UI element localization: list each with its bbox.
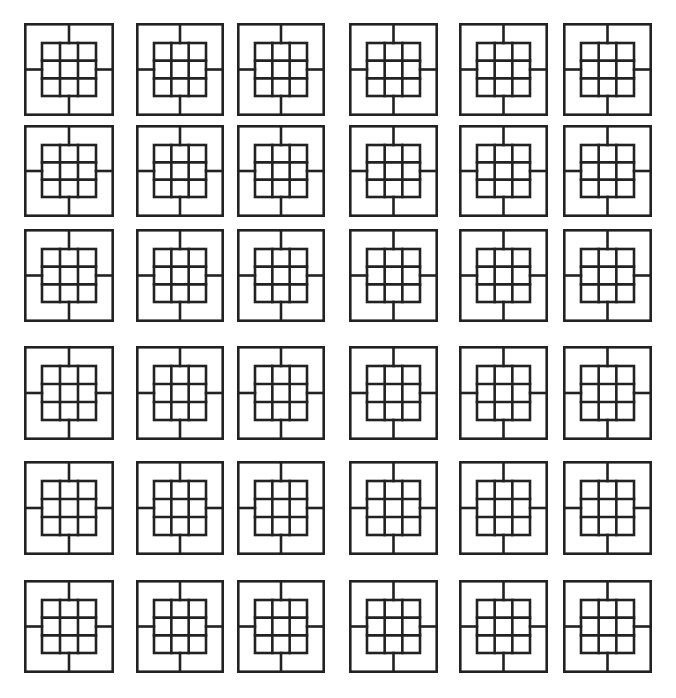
maze-tile-r2-c5 bbox=[459, 125, 548, 217]
inner-grid-frame bbox=[255, 481, 307, 535]
inner-grid-frame bbox=[477, 600, 530, 653]
maze-tile-r6-c4 bbox=[349, 580, 438, 673]
maze-tile-graphic bbox=[136, 580, 224, 673]
maze-tile-graphic bbox=[349, 23, 438, 116]
maze-tile-graphic bbox=[24, 461, 114, 555]
tile-grid-diagram bbox=[0, 0, 676, 698]
maze-tile-r4-c1 bbox=[24, 346, 114, 440]
inner-grid-frame bbox=[154, 249, 206, 302]
inner-grid-frame bbox=[42, 43, 96, 96]
inner-grid-frame bbox=[477, 43, 530, 96]
inner-grid-frame bbox=[255, 43, 307, 96]
inner-grid-frame bbox=[367, 600, 420, 653]
maze-tile-r2-c2 bbox=[136, 125, 224, 217]
inner-grid-frame bbox=[367, 481, 420, 535]
maze-tile-r2-c1 bbox=[24, 125, 114, 217]
inner-grid-frame bbox=[154, 600, 206, 653]
inner-grid-frame bbox=[255, 145, 307, 197]
maze-tile-graphic bbox=[24, 346, 114, 440]
maze-tile-graphic bbox=[459, 580, 548, 673]
inner-grid-frame bbox=[42, 366, 96, 420]
maze-tile-graphic bbox=[459, 125, 548, 217]
inner-grid-frame bbox=[255, 249, 307, 302]
maze-tile-graphic bbox=[24, 229, 114, 322]
maze-tile-graphic bbox=[24, 580, 114, 673]
maze-tile-graphic bbox=[24, 23, 114, 116]
inner-grid-frame bbox=[367, 43, 420, 96]
inner-grid-frame bbox=[154, 43, 206, 96]
maze-tile-r6-c2 bbox=[136, 580, 224, 673]
maze-tile-graphic bbox=[563, 580, 652, 673]
maze-tile-r1-c1 bbox=[24, 23, 114, 116]
maze-tile-r3-c4 bbox=[349, 229, 438, 322]
maze-tile-graphic bbox=[349, 125, 438, 217]
maze-tile-r5-c4 bbox=[349, 461, 438, 555]
maze-tile-graphic bbox=[563, 461, 652, 555]
maze-tile-graphic bbox=[563, 229, 652, 322]
inner-grid-frame bbox=[477, 481, 530, 535]
maze-tile-r1-c3 bbox=[237, 23, 325, 116]
inner-grid-frame bbox=[42, 145, 96, 197]
maze-tile-graphic bbox=[459, 229, 548, 322]
inner-grid-frame bbox=[42, 249, 96, 302]
maze-tile-r5-c3 bbox=[237, 461, 325, 555]
maze-tile-r3-c3 bbox=[237, 229, 325, 322]
maze-tile-r4-c6 bbox=[563, 346, 652, 440]
inner-grid-frame bbox=[581, 481, 634, 535]
maze-tile-graphic bbox=[237, 580, 325, 673]
inner-grid-frame bbox=[581, 43, 634, 96]
inner-grid-frame bbox=[42, 600, 96, 653]
maze-tile-r2-c6 bbox=[563, 125, 652, 217]
maze-tile-r5-c6 bbox=[563, 461, 652, 555]
maze-tile-r4-c4 bbox=[349, 346, 438, 440]
inner-grid-frame bbox=[581, 600, 634, 653]
maze-tile-graphic bbox=[237, 23, 325, 116]
maze-tile-r3-c5 bbox=[459, 229, 548, 322]
inner-grid-frame bbox=[367, 249, 420, 302]
maze-tile-graphic bbox=[349, 461, 438, 555]
maze-tile-graphic bbox=[136, 461, 224, 555]
maze-tile-r5-c5 bbox=[459, 461, 548, 555]
maze-tile-graphic bbox=[237, 461, 325, 555]
maze-tile-r4-c2 bbox=[136, 346, 224, 440]
maze-tile-r2-c3 bbox=[237, 125, 325, 217]
maze-tile-r3-c2 bbox=[136, 229, 224, 322]
maze-tile-graphic bbox=[136, 23, 224, 116]
maze-tile-graphic bbox=[136, 229, 224, 322]
maze-tile-graphic bbox=[136, 346, 224, 440]
maze-tile-r2-c4 bbox=[349, 125, 438, 217]
maze-tile-graphic bbox=[24, 125, 114, 217]
inner-grid-frame bbox=[581, 145, 634, 197]
inner-grid-frame bbox=[367, 145, 420, 197]
inner-grid-frame bbox=[581, 366, 634, 420]
maze-tile-graphic bbox=[237, 229, 325, 322]
maze-tile-r4-c5 bbox=[459, 346, 548, 440]
maze-tile-r5-c1 bbox=[24, 461, 114, 555]
inner-grid-frame bbox=[255, 600, 307, 653]
inner-grid-frame bbox=[154, 481, 206, 535]
maze-tile-graphic bbox=[563, 23, 652, 116]
inner-grid-frame bbox=[477, 366, 530, 420]
maze-tile-graphic bbox=[459, 23, 548, 116]
maze-tile-r1-c4 bbox=[349, 23, 438, 116]
maze-tile-r6-c6 bbox=[563, 580, 652, 673]
maze-tile-r6-c1 bbox=[24, 580, 114, 673]
maze-tile-graphic bbox=[563, 125, 652, 217]
inner-grid-frame bbox=[477, 249, 530, 302]
maze-tile-r1-c5 bbox=[459, 23, 548, 116]
maze-tile-r3-c1 bbox=[24, 229, 114, 322]
maze-tile-r1-c6 bbox=[563, 23, 652, 116]
inner-grid-frame bbox=[581, 249, 634, 302]
maze-tile-graphic bbox=[349, 580, 438, 673]
inner-grid-frame bbox=[367, 366, 420, 420]
maze-tile-graphic bbox=[459, 346, 548, 440]
inner-grid-frame bbox=[154, 366, 206, 420]
maze-tile-r5-c2 bbox=[136, 461, 224, 555]
maze-tile-graphic bbox=[349, 229, 438, 322]
maze-tile-r3-c6 bbox=[563, 229, 652, 322]
inner-grid-frame bbox=[477, 145, 530, 197]
maze-tile-graphic bbox=[459, 461, 548, 555]
maze-tile-r4-c3 bbox=[237, 346, 325, 440]
maze-tile-graphic bbox=[563, 346, 652, 440]
maze-tile-r6-c5 bbox=[459, 580, 548, 673]
